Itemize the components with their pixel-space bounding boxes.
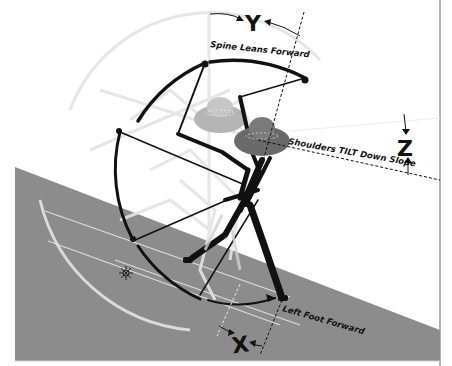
y-annotation: Y Spine Leans Forward (210, 11, 311, 60)
golf-slope-diagram: Y Spine Leans Forward Z Shoulders TILT D… (0, 0, 452, 366)
x-letter: X (230, 331, 250, 358)
slope-ground (15, 167, 440, 361)
z-annotation: Z Shoulders TILT Down Slope (288, 114, 417, 175)
y-letter: Y (244, 11, 262, 36)
horizontal-ref-line (290, 118, 440, 131)
ball-sunburst-icon (119, 266, 133, 280)
